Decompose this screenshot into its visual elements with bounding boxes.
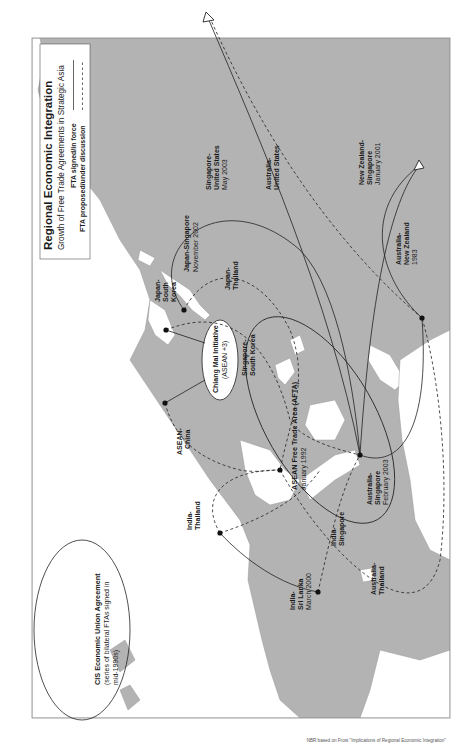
india-thailand-line2: Thailand: [194, 501, 201, 530]
australia-nz-line2: New Zealand: [403, 222, 410, 265]
japan-skorea-label: Japan-: [154, 279, 162, 302]
asean-china-label: ASEAN-: [176, 427, 183, 455]
singapore-us-line2: United States: [213, 145, 220, 190]
japan-thailand-label: Japan-: [224, 267, 232, 290]
nz-singapore-date: January 2001: [374, 142, 382, 185]
australia-singapore-line2: Singapore: [374, 471, 382, 505]
legend-signed-label: FTA signed/in force: [70, 123, 78, 188]
india-singapore-label: India-: [330, 527, 337, 546]
legend: Regional Economic Integration Growth of …: [40, 44, 90, 259]
legend-proposed-label: FTA proposed/under discussion: [79, 125, 87, 232]
afta-date: January 1992: [300, 447, 308, 490]
singapore-skorea-label: Singapore-: [241, 339, 249, 376]
legend-title: Regional Economic Integration: [42, 81, 54, 250]
australia-singapore-label: Australia-: [366, 472, 373, 505]
australia-nz-date: 1983: [411, 249, 418, 265]
japan-singapore-date: November 2002: [192, 222, 199, 272]
japan-singapore-label: Japan-Singapore: [183, 215, 191, 272]
singapore-us-label: Singapore-: [205, 153, 213, 190]
singapore-skorea-line2: South Korea: [249, 334, 256, 376]
afta-label: ASEAN Free Trade Area (AFTA): [290, 381, 299, 490]
chiang-mai-line2: (ASEAN +3): [221, 341, 229, 379]
singapore-us-date: May 2003: [221, 159, 229, 190]
nz-singapore-label: New Zealand-: [358, 139, 365, 185]
australia-thailand-line2: Thailand: [378, 566, 385, 595]
arrow-us-icon: [203, 12, 214, 22]
legend-subtitle: Growth of Free Trade Agreements in Strat…: [57, 65, 66, 250]
cis-line2: (series of bilateral FTAs signed in: [103, 582, 111, 685]
japan-skorea-line3: Korea: [170, 282, 177, 302]
india-srilanka-label: India-: [289, 591, 296, 610]
fta-map: Regional Economic Integration Growth of …: [0, 0, 456, 756]
chiang-mai-label: Chiang Mai Initiative: [212, 325, 220, 393]
india-srilanka-line2: Sri Lanka: [297, 578, 304, 610]
australia-singapore-date: February 2003: [382, 459, 390, 505]
japan-skorea-line2: South: [162, 282, 169, 302]
india-thailand-label: India-: [186, 511, 193, 530]
cis-label: CIS Economic Union Agreement: [93, 573, 102, 685]
australia-us-line2: United States: [273, 145, 280, 190]
asean-china-line2: China: [184, 429, 191, 449]
australia-thailand-label: Australia-: [370, 562, 377, 595]
india-srilanka-date: March 2000: [305, 573, 312, 610]
australia-us-label: Australia-: [265, 157, 272, 190]
india-singapore-line2: Singapore: [338, 512, 346, 546]
cis-line3: mid-1990s): [112, 650, 120, 685]
source-credit: NBR based on Frost "Implications of Regi…: [307, 738, 446, 743]
nz-singapore-line2: Singapore: [366, 151, 374, 185]
japan-thailand-line2: Thailand: [232, 261, 239, 290]
australia-nz-label: Australia-: [395, 232, 402, 265]
